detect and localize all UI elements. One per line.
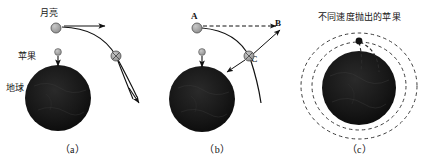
- earth-globe: [25, 65, 91, 131]
- panel-a: 月亮 苹果 地球: [0, 0, 145, 162]
- panel-b-graphics: [145, 0, 290, 162]
- gravity-arrow-at-c: [227, 60, 245, 72]
- earth-globe: [169, 66, 235, 132]
- moon-trajectory-branch: [116, 56, 133, 99]
- panel-c: 不同速度抛出的苹果: [290, 0, 429, 162]
- panel-c-graphics: [290, 0, 429, 162]
- panel-a-caption: （a）: [0, 141, 145, 156]
- panel-b: A B C: [145, 0, 290, 162]
- moon-circle: [51, 23, 61, 33]
- panel-b-caption: （b）: [145, 141, 290, 156]
- apple-dot: [55, 49, 62, 56]
- panel-a-graphics: [0, 0, 145, 162]
- physics-figure: 月亮 苹果 地球: [0, 0, 429, 162]
- launch-dot: [356, 38, 363, 45]
- panel-c-caption: （c）: [290, 141, 429, 156]
- displacement-arrow-bc: [252, 30, 280, 55]
- apple-dot: [199, 49, 206, 56]
- earth-globe: [322, 51, 396, 125]
- moon-circle: [192, 23, 202, 33]
